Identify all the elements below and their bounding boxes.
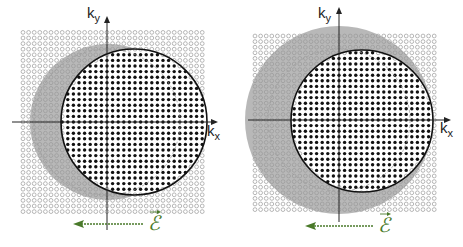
ky-arrowhead-icon <box>104 16 110 23</box>
ky-label: ky <box>87 4 101 24</box>
fermi-sphere-diagram: kykxℰ kykxℰ <box>0 0 463 247</box>
kx-label: kx <box>207 122 221 142</box>
kx-label: kx <box>440 119 454 139</box>
electric-field-label: ℰ <box>148 211 162 235</box>
panel-fermi-sphere-scattered: kykxℰ <box>245 4 454 237</box>
ky-label: ky <box>318 4 332 24</box>
electric-field-label: ℰ <box>378 213 392 237</box>
ky-arrowhead-icon <box>336 7 342 14</box>
panel-fermi-sphere-shift: kykxℰ <box>12 4 221 235</box>
